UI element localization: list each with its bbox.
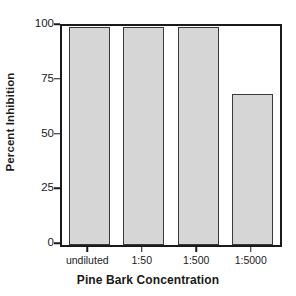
x-axis-title: Pine Bark Concentration	[0, 273, 296, 287]
x-axis-tick-label: 1:5000	[235, 254, 267, 267]
plot-area	[60, 24, 282, 247]
bar	[178, 27, 219, 245]
x-axis-tick-mark	[141, 245, 143, 252]
x-axis-tick-label: undiluted	[66, 254, 109, 267]
x-axis-tick-mark	[250, 245, 252, 252]
bar	[232, 94, 273, 245]
x-axis-tick-marks	[60, 245, 280, 252]
bar	[69, 27, 110, 245]
y-axis-tick-label: 0	[24, 237, 54, 249]
x-axis-tick-labels: undiluted1:501:5001:5000	[60, 254, 280, 270]
bar	[123, 27, 164, 245]
y-axis-title-text: Percent Inhibition	[4, 72, 16, 171]
y-axis-tick-label: 75	[24, 73, 54, 85]
y-axis-tick-labels: 0255075100	[22, 0, 54, 296]
bar-chart-figure: Percent Inhibition 0255075100 undiluted1…	[0, 0, 296, 296]
x-axis-tick-mark	[87, 245, 89, 252]
x-axis-tick-label: 1:500	[183, 254, 209, 267]
x-axis-tick-mark	[196, 245, 198, 252]
x-axis-tick-label: 1:50	[132, 254, 152, 267]
bar-series	[62, 26, 280, 245]
y-axis-tick-label: 25	[24, 183, 54, 195]
y-axis-tick-label: 100	[24, 18, 54, 30]
y-axis-tick-label: 50	[24, 128, 54, 140]
y-axis-title: Percent Inhibition	[0, 0, 20, 243]
